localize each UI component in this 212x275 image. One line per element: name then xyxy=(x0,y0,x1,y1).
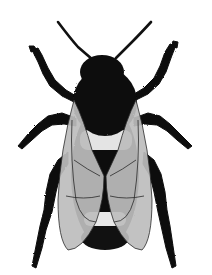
bee-illustration: Illustration of a bumblebee, dorsal view xyxy=(0,0,212,275)
antenna-left xyxy=(58,22,92,59)
antenna-right xyxy=(116,22,151,58)
antennae xyxy=(58,22,151,59)
leg-front-right xyxy=(134,44,176,100)
head xyxy=(80,55,124,89)
bee-drawing xyxy=(0,0,212,275)
leg-front-left xyxy=(32,48,76,102)
